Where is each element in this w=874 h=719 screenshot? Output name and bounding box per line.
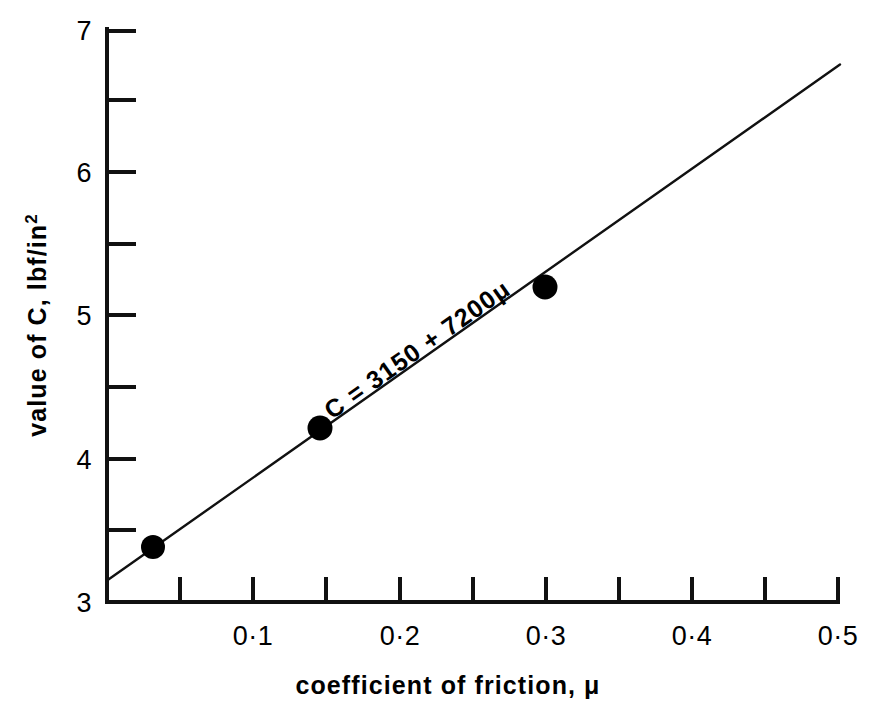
data-point-3 [533,275,558,300]
x-tick-label-0p5: 0·5 [818,621,859,651]
y-tick-label-3: 3 [76,588,92,618]
x-tick-label-0p1: 0·1 [233,621,274,651]
y-axis-ticks [107,31,136,530]
equation-annotation-group: C = 3150 + 7200μ [319,274,516,424]
y-axis-title-superscript: 2 [22,213,41,224]
y-tick-label-6: 6 [76,158,92,188]
y-axis-title-group: value of C, lbf/in2 [22,213,51,436]
y-tick-label-4: 4 [76,445,92,475]
y-axis-title-main: value of C, lbf/in [23,224,51,437]
scatter-plot: 7 6 5 4 3 0·1 0·2 0·3 0·4 0·5 coefficien… [0,0,874,719]
y-tick-label-5: 5 [76,301,92,331]
x-axis-ticks [180,577,838,602]
x-axis-title: coefficient of friction, μ [295,671,600,699]
y-tick-labels: 7 6 5 4 3 [76,16,92,618]
x-tick-label-0p3: 0·3 [526,621,567,651]
data-point-2 [308,416,333,441]
equation-annotation: C = 3150 + 7200μ [319,274,516,424]
y-axis-title: value of C, lbf/in2 [22,213,51,436]
x-tick-label-0p4: 0·4 [672,621,713,651]
data-point-1 [141,535,165,559]
x-tick-label-0p2: 0·2 [380,621,421,651]
chart-figure: 7 6 5 4 3 0·1 0·2 0·3 0·4 0·5 coefficien… [0,0,874,719]
y-tick-label-7: 7 [76,16,92,46]
x-tick-labels: 0·1 0·2 0·3 0·4 0·5 [233,621,859,651]
data-points [141,275,558,560]
